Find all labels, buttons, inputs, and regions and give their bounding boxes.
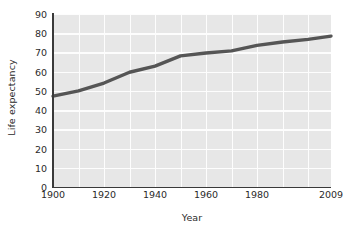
x-axis-tick-label: 1940	[143, 189, 167, 200]
x-axis-line	[52, 187, 331, 189]
x-axis-tick-labels: 190019201940196019802009	[53, 189, 331, 205]
y-axis-line	[52, 13, 54, 188]
y-axis-tick-label: 90	[35, 9, 47, 20]
x-axis-tick-label: 1980	[245, 189, 269, 200]
x-axis-title: Year	[53, 206, 331, 225]
y-axis-title: Life expectancy	[0, 0, 22, 195]
plot-area	[53, 14, 331, 187]
x-axis-tick-label: 1900	[41, 189, 65, 200]
y-axis-tick-label: 70	[35, 47, 47, 58]
x-axis-tick-label: 1920	[92, 189, 116, 200]
y-axis-tick-label: 50	[35, 85, 47, 96]
y-axis-tick-label: 80	[35, 28, 47, 39]
y-axis-tick-label: 60	[35, 66, 47, 77]
x-axis-tick-label: 1960	[194, 189, 218, 200]
y-axis-title-text: Life expectancy	[6, 59, 17, 135]
y-axis-tick-label: 30	[35, 124, 47, 135]
y-axis-tick-label: 10	[35, 162, 47, 173]
data-series-line	[53, 14, 331, 187]
y-axis-tick-label: 40	[35, 105, 47, 116]
y-axis-tick-label: 20	[35, 143, 47, 154]
life-expectancy-line-chart: Life expectancy 0102030405060708090 1900…	[0, 0, 346, 230]
x-axis-tick-label: 2009	[319, 189, 343, 200]
y-axis-tick-labels: 0102030405060708090	[22, 14, 50, 187]
life-expectancy-polyline	[53, 36, 331, 96]
x-axis-title-text: Year	[182, 212, 203, 223]
